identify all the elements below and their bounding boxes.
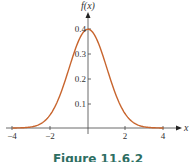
y-axis-arrow-icon xyxy=(86,12,91,18)
chart: −4 −2 2 4 0.1 0.2 0.3 0.4 f(x) x Figure … xyxy=(0,0,191,162)
y-tick-label: 0.1 xyxy=(75,99,86,109)
x-axis-arrow-icon xyxy=(176,126,182,131)
x-tick-label: −2 xyxy=(45,131,55,141)
x-axis-label: x xyxy=(183,122,189,133)
x-tick-label: −4 xyxy=(7,131,17,141)
y-tick-label: 0.2 xyxy=(75,74,86,84)
y-axis-label: f(x) xyxy=(81,0,96,12)
x-tick-label: 4 xyxy=(161,131,166,141)
y-tick-label: 0.3 xyxy=(75,49,87,59)
y-tick-label: 0.4 xyxy=(75,24,87,34)
figure-caption: Figure 11.6.2 xyxy=(53,152,143,162)
y-ticks xyxy=(88,29,91,104)
x-tick-label: 2 xyxy=(123,131,128,141)
